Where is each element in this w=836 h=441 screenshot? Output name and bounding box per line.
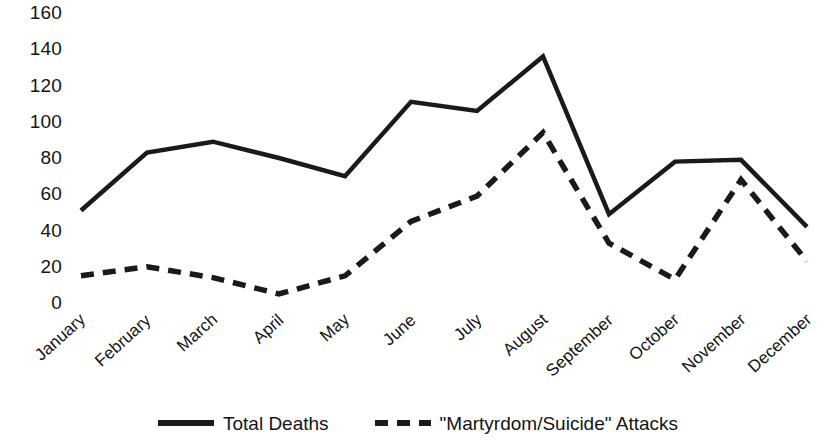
x-axis-tick-label: September	[543, 311, 616, 379]
solid-line-icon	[158, 420, 214, 426]
x-axis-tick-label: January	[32, 311, 88, 364]
x-axis-tick-label: May	[317, 311, 352, 345]
legend-item[interactable]: Total Deaths	[158, 414, 329, 433]
legend-item[interactable]: "Martyrdom/Suicide" Attacks	[375, 414, 678, 433]
x-axis-tick-label: November	[679, 311, 749, 376]
legend-item-label: "Martyrdom/Suicide" Attacks	[440, 414, 678, 433]
x-axis-tick-label: December	[745, 311, 815, 376]
x-axis-tick-label: April	[250, 311, 287, 346]
line-chart: 160140120100806040200 JanuaryFebruaryMar…	[0, 0, 836, 441]
x-axis-tick-label: July	[451, 311, 485, 344]
x-axis-tick-label: October	[626, 311, 682, 364]
x-axis-tick-label: June	[380, 311, 419, 348]
chart-legend: Total Deaths"Martyrdom/Suicide" Attacks	[0, 406, 836, 440]
x-axis-tick-label: August	[500, 311, 551, 359]
x-axis: JanuaryFebruaryMarchAprilMayJuneJulyAugu…	[0, 0, 836, 441]
legend-item-label: Total Deaths	[223, 414, 329, 433]
dashed-line-icon	[375, 420, 431, 426]
x-axis-tick-label: March	[174, 311, 220, 355]
x-axis-tick-label: February	[92, 311, 154, 369]
